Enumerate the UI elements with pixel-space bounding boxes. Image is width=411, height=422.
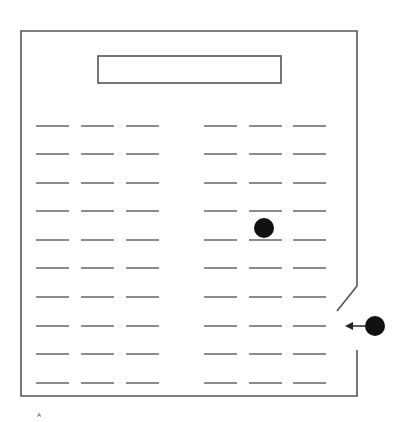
door bbox=[337, 286, 357, 311]
room-walls bbox=[21, 31, 357, 396]
seated-person-dot bbox=[254, 218, 274, 238]
wall bbox=[21, 31, 357, 396]
board-rectangle bbox=[98, 56, 281, 83]
seat-rows bbox=[36, 126, 326, 383]
arrow-left-icon bbox=[345, 322, 353, 330]
entering-person-dot bbox=[365, 316, 385, 336]
figure-label: A bbox=[37, 412, 41, 418]
classroom-diagram bbox=[0, 0, 411, 422]
person-markers bbox=[254, 218, 385, 336]
